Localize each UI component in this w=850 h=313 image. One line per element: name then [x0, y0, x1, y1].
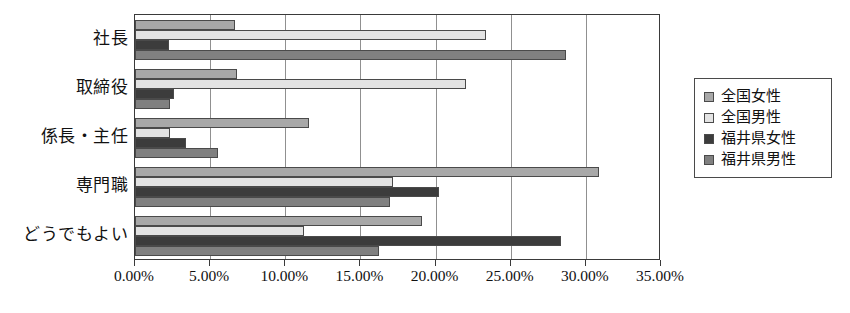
x-axis-tick	[660, 260, 661, 266]
y-axis-category-labels: 社長取締役係長・主任専門職どうでもよい	[0, 14, 128, 260]
legend-item: 全国女性	[704, 86, 823, 107]
chart-legend: 全国女性全国男性福井県女性福井県男性	[694, 78, 832, 178]
x-axis-tick	[510, 260, 511, 266]
bar	[135, 216, 422, 226]
bar	[135, 79, 466, 89]
x-axis-tick	[435, 260, 436, 266]
bar-group	[135, 15, 659, 64]
y-axis-label: 専門職	[76, 177, 129, 194]
bar	[135, 118, 309, 128]
bar	[135, 20, 235, 30]
x-axis-tick-labels: 0.00%5.00%10.00%15.00%20.00%25.00%30.00%…	[0, 268, 850, 294]
x-axis-tick	[209, 260, 210, 266]
legend-swatch-icon	[704, 92, 714, 102]
legend-swatch-icon	[704, 113, 714, 123]
x-axis-tick-label: 30.00%	[561, 268, 609, 284]
bar	[135, 30, 486, 40]
bar	[135, 236, 561, 246]
bar-group	[135, 163, 659, 212]
x-axis-tick-label: 10.00%	[260, 268, 308, 284]
bar	[135, 246, 379, 256]
legend-label: 福井県男性	[721, 152, 796, 167]
bar	[135, 197, 390, 207]
bar-group	[135, 212, 659, 261]
bar	[135, 89, 174, 99]
x-axis-tick	[134, 260, 135, 266]
bar	[135, 69, 237, 79]
bar	[135, 226, 304, 236]
legend-item: 福井県男性	[704, 149, 823, 170]
bar-group	[135, 64, 659, 113]
legend-item: 福井県女性	[704, 128, 823, 149]
x-axis-tick-label: 25.00%	[486, 268, 534, 284]
x-axis-tick	[585, 260, 586, 266]
bar	[135, 40, 169, 50]
x-axis-tick-label: 5.00%	[189, 268, 229, 284]
legend-label: 全国男性	[721, 110, 781, 125]
x-axis-tick-label: 20.00%	[411, 268, 459, 284]
bar	[135, 138, 186, 148]
legend-swatch-icon	[704, 134, 714, 144]
bar	[135, 148, 218, 158]
bar	[135, 177, 393, 187]
bar	[135, 187, 439, 197]
bar	[135, 50, 566, 60]
x-axis-tick	[284, 260, 285, 266]
legend-swatch-icon	[704, 155, 714, 165]
bar-group	[135, 113, 659, 162]
bar	[135, 99, 170, 109]
plot-area	[134, 14, 660, 260]
y-axis-label: 取締役	[76, 79, 129, 96]
bar-chart-figure: 社長取締役係長・主任専門職どうでもよい 0.00%5.00%10.00%15.0…	[0, 0, 850, 313]
y-axis-label: 社長	[93, 30, 128, 47]
x-axis-tick	[359, 260, 360, 266]
bar	[135, 128, 170, 138]
x-axis-tick-label: 0.00%	[114, 268, 154, 284]
legend-label: 全国女性	[721, 89, 781, 104]
bars-layer	[135, 15, 659, 259]
x-axis-tick-label: 35.00%	[636, 268, 684, 284]
legend-label: 福井県女性	[721, 131, 796, 146]
y-axis-label: 係長・主任	[41, 128, 129, 145]
x-axis-tick-label: 15.00%	[336, 268, 384, 284]
legend-item: 全国男性	[704, 107, 823, 128]
y-axis-label: どうでもよい	[23, 226, 128, 243]
bar	[135, 167, 599, 177]
